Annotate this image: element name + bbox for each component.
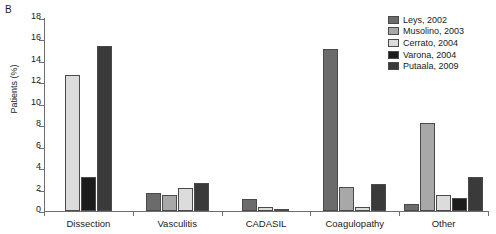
bar: [404, 204, 419, 212]
bar: [162, 195, 177, 211]
legend-label: Cerrato, 2004: [403, 38, 458, 48]
bar-group: [310, 18, 399, 211]
x-tick-mark: [133, 211, 134, 216]
legend-item: Varona, 2004: [388, 49, 464, 61]
bar: [436, 195, 451, 211]
bar: [194, 183, 209, 211]
bar: [258, 207, 273, 211]
bar: [97, 46, 112, 211]
y-axis-title: Patients (%): [9, 39, 19, 139]
x-tick-mark: [310, 211, 311, 216]
x-tick-label: CADASIL: [222, 218, 311, 229]
bar-group: [133, 18, 222, 211]
bar: [323, 49, 338, 211]
x-tick-label: Dissection: [44, 218, 133, 229]
bar: [178, 188, 193, 211]
y-tick-label: 14: [31, 55, 41, 64]
x-tick-mark: [399, 211, 400, 216]
y-tick-label: 10: [31, 98, 41, 107]
x-tick-label: Other: [399, 218, 488, 229]
y-tick-label: 16: [31, 33, 41, 42]
x-tick-mark: [488, 211, 489, 216]
y-tick-label: 6: [36, 141, 41, 150]
bar: [274, 209, 289, 211]
y-tick-label: 18: [31, 12, 41, 21]
legend-item: Putaala, 2009: [388, 60, 464, 72]
x-tick-mark: [44, 211, 45, 216]
bar: [355, 207, 370, 211]
legend-swatch: [388, 51, 399, 59]
legend-swatch: [388, 27, 399, 35]
bar: [81, 177, 96, 211]
bar: [420, 123, 435, 211]
panel-label: B: [5, 4, 12, 16]
x-axis-line: [44, 211, 488, 212]
y-tick-label: 8: [36, 119, 41, 128]
bar: [371, 184, 386, 211]
x-tick-mark: [222, 211, 223, 216]
bar: [65, 75, 80, 211]
bar: [339, 187, 354, 211]
x-tick-label: Coagulopathy: [310, 218, 399, 229]
y-tick-label: 12: [31, 76, 41, 85]
legend-label: Putaala, 2009: [403, 61, 459, 71]
legend-label: Musolino, 2003: [403, 26, 464, 36]
legend-label: Varona, 2004: [403, 50, 456, 60]
legend-swatch: [388, 62, 399, 70]
y-tick-label: 0: [36, 205, 41, 214]
legend-swatch: [388, 39, 399, 47]
bar: [242, 199, 257, 211]
bar-group: [44, 18, 133, 211]
bar: [468, 177, 483, 211]
x-tick-label: Vasculitis: [133, 218, 222, 229]
legend-label: Leys, 2002: [403, 15, 447, 25]
bar: [452, 198, 467, 211]
legend: Leys, 2002Musolino, 2003Cerrato, 2004Var…: [388, 14, 464, 72]
bar: [146, 193, 161, 211]
legend-item: Cerrato, 2004: [388, 37, 464, 49]
legend-swatch: [388, 16, 399, 24]
y-tick-label: 4: [36, 162, 41, 171]
figure-panel-b: B Patients (%) 024681012141618 Dissectio…: [0, 0, 496, 234]
legend-item: Musolino, 2003: [388, 26, 464, 38]
bar-group: [222, 18, 311, 211]
y-tick-label: 2: [36, 184, 41, 193]
legend-item: Leys, 2002: [388, 14, 464, 26]
